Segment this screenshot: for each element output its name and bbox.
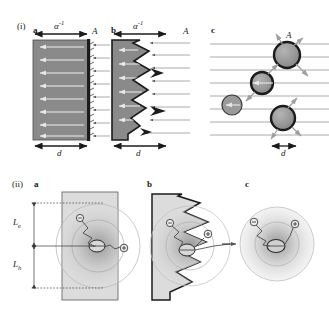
panel-i-a-graphics: [33, 34, 110, 146]
panel-i-b-graphics: [112, 34, 190, 146]
panel-i-c-graphics: [210, 34, 329, 146]
figure-canvas: (i) a α-1 A d b α-1 A d c A d (ii) a Le …: [0, 0, 329, 315]
length-subscript: e: [18, 222, 21, 229]
electron-marker: [250, 218, 258, 226]
hole-marker: [291, 220, 299, 228]
panel-label-i-a: a: [33, 26, 38, 35]
row-label-i: (i): [17, 22, 26, 31]
electron-marker: [166, 219, 173, 226]
area-label-i-a: A: [92, 27, 98, 36]
panel-label-i-c: c: [211, 26, 215, 35]
nanoparticle-group: [222, 42, 300, 130]
particle-size-label-i-c: d: [281, 149, 286, 158]
electron-marker: [76, 214, 83, 221]
panel-ii-b-graphics: [150, 194, 230, 300]
figure-graphics: [0, 0, 329, 315]
alpha-exponent: -1: [59, 19, 64, 26]
panel-label-i-b: b: [111, 26, 116, 35]
hole-length-label: Lh: [13, 260, 21, 271]
thickness-label-i-a: d: [57, 149, 62, 158]
area-label-i-b: A: [183, 27, 189, 36]
panel-label-ii-b: b: [147, 180, 152, 189]
panel-label-ii-c: c: [245, 180, 249, 189]
hole-marker: [204, 230, 212, 238]
surface-scatter-marks: [140, 68, 166, 136]
textured-slab-body: [112, 40, 150, 140]
thickness-label-i-b: d: [136, 149, 141, 158]
panel-label-ii-a: a: [34, 180, 39, 189]
electron-length-label: Le: [13, 218, 21, 229]
area-label-i-c: A: [286, 31, 292, 40]
incident-rays: [145, 43, 190, 133]
incident-rays: [93, 45, 110, 136]
alpha-label-i-a: α-1: [54, 20, 64, 31]
panel-ii-a-graphics: [32, 192, 140, 300]
length-subscript: h: [18, 264, 21, 271]
row-label-ii: (ii): [12, 180, 23, 189]
hole-marker: [120, 244, 128, 252]
surface-scatter-ticks: [90, 42, 94, 135]
alpha-exponent: -1: [138, 19, 143, 26]
alpha-label-i-b: α-1: [133, 20, 143, 31]
panel-ii-c-graphics: [222, 207, 314, 281]
